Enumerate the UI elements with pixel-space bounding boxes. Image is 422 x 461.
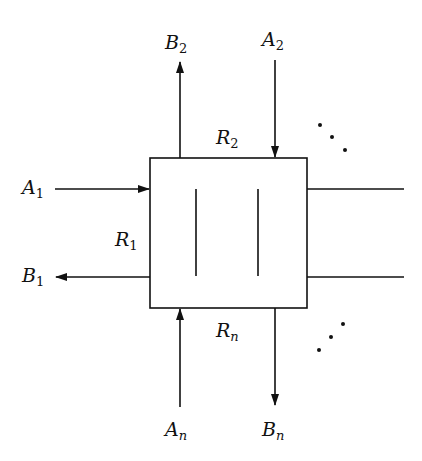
label-r2: R2 [216, 128, 239, 150]
label-r1: R1 [115, 230, 138, 252]
label-b2: B2 [165, 33, 187, 55]
ellipsis-bottom-right [317, 322, 345, 352]
central-box [150, 158, 307, 308]
ellipsis-top-right [318, 123, 347, 152]
label-bn: Bn [262, 420, 284, 442]
label-rn: Rn [216, 321, 239, 343]
label-an: An [165, 420, 187, 442]
label-a1: A1 [22, 178, 44, 200]
label-b1: B1 [22, 266, 44, 288]
label-a2: A2 [262, 30, 284, 52]
diagram-canvas [0, 0, 422, 461]
